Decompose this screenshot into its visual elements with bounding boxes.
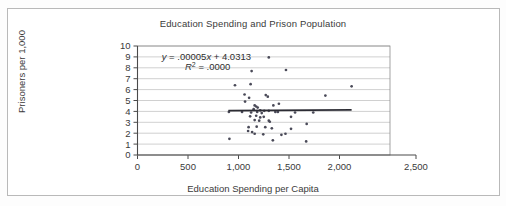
annotations-group: y = .00005x + 4.0313R2 = .0000 <box>161 51 251 72</box>
y-tick-label: 8 <box>125 62 130 73</box>
y-tick-label: 4 <box>125 106 130 117</box>
data-point <box>290 116 293 119</box>
data-point <box>247 130 250 133</box>
data-point <box>271 139 274 142</box>
y-tick-label: 7 <box>125 73 130 84</box>
data-point <box>262 133 265 136</box>
data-point <box>312 111 315 114</box>
x-tick-labels-group: 05001,0001,5002,0002,500 <box>135 161 428 172</box>
trend-line-group <box>228 110 351 111</box>
data-point <box>249 83 252 86</box>
scatter-plot: 012345678910 05001,0001,5002,0002,500 y … <box>0 0 506 206</box>
r-squared-label: R2 = .0000 <box>185 61 230 73</box>
data-point <box>253 119 256 122</box>
data-point <box>324 94 327 97</box>
data-point <box>278 102 281 105</box>
data-point <box>270 127 273 130</box>
data-point <box>255 114 258 117</box>
data-point <box>253 132 256 135</box>
data-point <box>234 84 237 87</box>
data-point <box>250 111 253 114</box>
data-points-group <box>228 56 353 143</box>
y-tick-label: 9 <box>125 51 130 62</box>
data-point <box>256 106 259 109</box>
data-point <box>294 111 297 114</box>
x-tick-label: 2,500 <box>404 161 428 172</box>
data-point <box>266 95 269 98</box>
data-point <box>259 116 262 119</box>
data-point <box>268 120 271 123</box>
data-point <box>228 138 231 141</box>
data-point <box>280 133 283 136</box>
data-point <box>247 126 250 129</box>
y-tick-label: 5 <box>125 95 130 106</box>
data-point <box>250 70 253 73</box>
data-point <box>248 96 251 99</box>
x-tick-label: 1,000 <box>227 161 251 172</box>
data-point <box>262 116 265 119</box>
data-point <box>260 112 263 115</box>
trend-line <box>228 110 351 111</box>
data-point <box>244 100 247 103</box>
data-point <box>290 127 293 130</box>
data-point <box>285 69 288 72</box>
y-tick-label: 10 <box>120 40 131 51</box>
data-point <box>305 140 308 143</box>
y-tick-label: 6 <box>125 84 130 95</box>
x-tick-label: 1,500 <box>277 161 301 172</box>
data-point <box>350 85 353 88</box>
y-tick-label: 2 <box>125 128 130 139</box>
data-point <box>272 104 275 107</box>
data-point <box>249 115 252 118</box>
y-tick-label: 1 <box>125 139 130 150</box>
y-tick-label: 3 <box>125 117 130 128</box>
y-tick-labels-group: 012345678910 <box>120 40 131 160</box>
data-point <box>264 126 267 129</box>
x-tick-label: 2,000 <box>328 161 352 172</box>
data-point <box>267 56 270 59</box>
regression-equation-label: y = .00005x + 4.0313 <box>161 51 251 62</box>
tick-marks-group <box>134 46 417 159</box>
data-point <box>251 131 254 134</box>
data-point <box>243 93 246 96</box>
x-tick-label: 500 <box>180 161 196 172</box>
data-point <box>258 119 261 122</box>
data-point <box>255 125 258 128</box>
data-point <box>305 123 308 126</box>
chart-figure: Education Spending and Prison Population… <box>0 0 506 206</box>
y-tick-label: 0 <box>125 149 130 160</box>
data-point <box>284 132 287 135</box>
x-tick-label: 0 <box>135 161 140 172</box>
